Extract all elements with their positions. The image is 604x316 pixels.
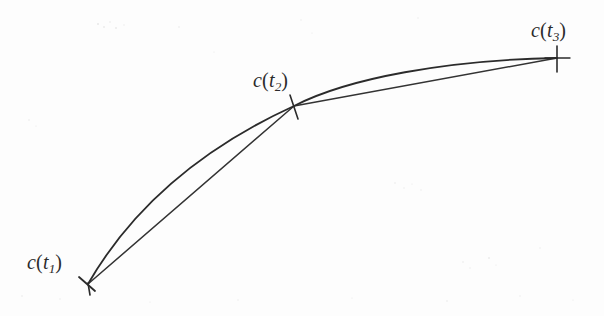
label-c-t1-base: c — [27, 251, 36, 273]
label-c-t3-close-paren: ) — [559, 19, 566, 41]
label-c-t1-close-paren: ) — [55, 251, 62, 273]
chord-t1-t2 — [88, 106, 294, 284]
label-c-t3-open-paren: ( — [540, 19, 547, 41]
figure-root: c(t1) c(t2) c(t3) — [0, 0, 604, 316]
point-label-c-t2: c(t2) — [253, 70, 288, 93]
tick-mark-c-t1-stem — [88, 283, 90, 295]
curve-diagram-canvas — [0, 0, 604, 316]
point-label-c-t3: c(t3) — [531, 20, 566, 43]
label-c-t3-base: c — [531, 19, 540, 41]
point-label-c-t1: c(t1) — [27, 252, 62, 275]
label-c-t2-close-paren: ) — [281, 69, 288, 91]
label-c-t2-open-paren: ( — [262, 69, 269, 91]
chord-t2-t3 — [294, 58, 557, 106]
label-c-t1-open-paren: ( — [36, 251, 43, 273]
label-c-t2-base: c — [253, 69, 262, 91]
